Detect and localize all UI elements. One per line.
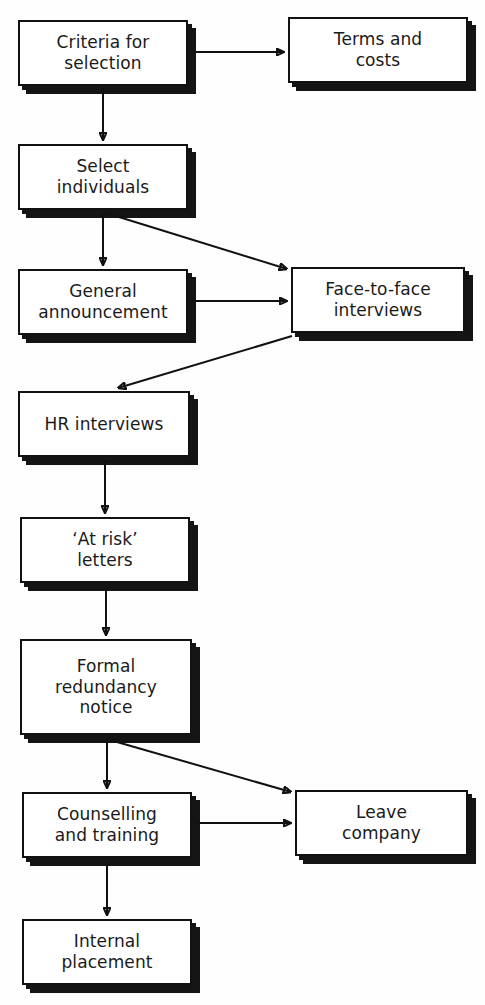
node-label: HR interviews [41, 414, 168, 435]
node-select-individuals[interactable]: Select individuals [18, 144, 188, 210]
node-label: Criteria for selection [53, 32, 154, 73]
node-label: Select individuals [53, 156, 153, 197]
node-at-risk-letters[interactable]: ‘At risk’ letters [20, 517, 190, 583]
node-hr-interviews[interactable]: HR interviews [18, 391, 190, 457]
arrow-select-to-face-to-face [106, 213, 287, 269]
node-face-to-face-interviews[interactable]: Face-to-face interviews [291, 267, 465, 333]
flowchart-canvas: Criteria for selectionTerms and costsSel… [0, 0, 485, 1005]
node-terms-and-costs[interactable]: Terms and costs [288, 17, 468, 83]
node-label: Terms and costs [330, 29, 426, 70]
node-criteria-for-selection[interactable]: Criteria for selection [18, 20, 188, 86]
node-formal-redundancy-notice[interactable]: Formal redundancy notice [20, 639, 192, 735]
node-general-announcement[interactable]: General announcement [18, 269, 188, 335]
arrow-face-to-face-to-hr [118, 336, 292, 388]
arrow-formal-to-leave-company [110, 740, 291, 792]
node-label: ‘At risk’ letters [68, 529, 142, 570]
node-leave-company[interactable]: Leave company [295, 790, 468, 856]
node-label: Formal redundancy notice [51, 656, 161, 718]
node-counselling-and-training[interactable]: Counselling and training [22, 792, 192, 858]
node-label: Internal placement [57, 931, 156, 972]
node-internal-placement[interactable]: Internal placement [22, 919, 192, 985]
node-label: General announcement [34, 281, 171, 322]
node-label: Leave company [338, 802, 425, 843]
node-label: Face-to-face interviews [321, 279, 435, 320]
node-label: Counselling and training [51, 804, 163, 845]
